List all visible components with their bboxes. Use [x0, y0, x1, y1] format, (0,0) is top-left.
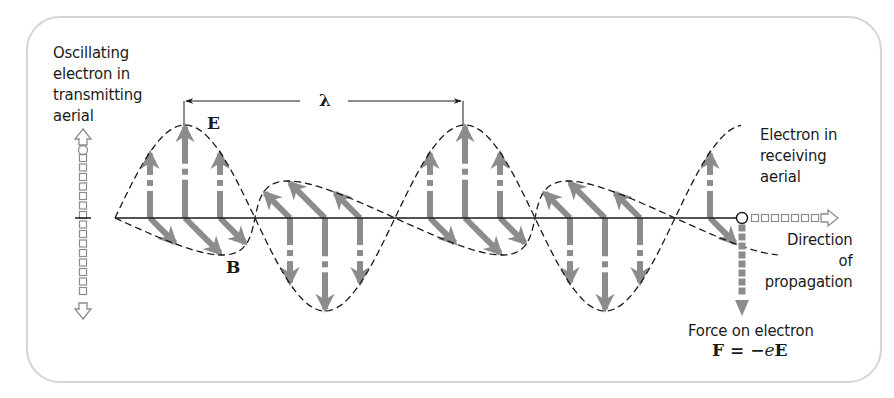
b-field-vector-arrow: [500, 218, 525, 243]
formula-charge: e: [764, 340, 774, 360]
magnetic-field-label: B: [226, 257, 240, 277]
b-field-vector-arrow: [290, 183, 325, 218]
receiving-electron: [737, 213, 748, 224]
transmitter-oscillation-arrow: [75, 129, 91, 319]
b-field-vector-arrow: [150, 218, 175, 243]
b-field-vector-arrow: [465, 218, 500, 253]
force-label: Force on electron: [688, 320, 814, 341]
b-field-vector-arrow: [265, 193, 290, 218]
b-field-vector-arrow: [185, 218, 220, 253]
transmitter-label: Oscillating electron in transmitting aer…: [53, 42, 142, 126]
electric-field-label: E: [207, 113, 220, 133]
propagation-direction-arrow: [752, 210, 839, 226]
b-field-vector-arrow: [615, 193, 640, 218]
force-formula: F = −eE: [712, 340, 787, 360]
direction-label: Direction of propagation: [765, 229, 853, 292]
b-field-vector-arrow: [570, 183, 605, 218]
wavelength-label: λ: [319, 90, 331, 110]
b-field-vector-arrow: [545, 193, 570, 218]
receiver-label: Electron in receiving aerial: [760, 124, 837, 187]
force-arrow: [735, 225, 749, 317]
b-field-vector-arrow: [220, 218, 245, 243]
